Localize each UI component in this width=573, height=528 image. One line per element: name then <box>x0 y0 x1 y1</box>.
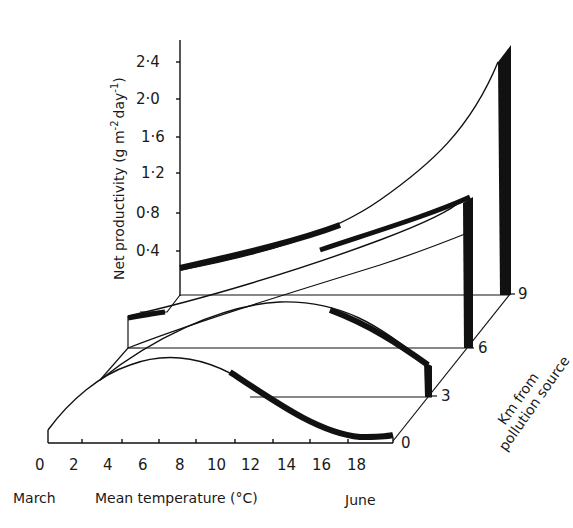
y-tick-label: 1·2 <box>141 164 165 182</box>
y-tick-label: 0·4 <box>136 242 160 260</box>
y-tick-label: 2·0 <box>136 90 160 108</box>
y-axis <box>176 40 180 296</box>
x-tick-label: 0 <box>35 456 45 474</box>
net-productivity-3d-chart: 0·4 0·8 1·2 1·6 2·0 2·4 Net productivity… <box>0 0 573 528</box>
x-axis <box>48 438 393 443</box>
x-tick-labels: 0 2 4 6 8 10 12 14 16 18 <box>35 456 366 474</box>
y-tick-label: 2·4 <box>136 53 160 71</box>
x-axis-right-label: June <box>344 492 376 508</box>
series-0km-ribbon <box>48 358 393 443</box>
y-axis-title: Net productivity (g m-2day-1) <box>109 77 127 280</box>
series-9km-ribbon <box>180 45 511 295</box>
x-tick-label: 18 <box>347 456 366 474</box>
z-tick-label: 0 <box>401 434 411 452</box>
x-tick-label: 6 <box>138 456 148 474</box>
x-tick-label: 12 <box>241 456 260 474</box>
x-tick-label: 8 <box>175 456 185 474</box>
x-tick-label: 16 <box>312 456 331 474</box>
x-tick-label: 10 <box>207 456 226 474</box>
y-tick-labels: 0·4 0·8 1·2 1·6 2·0 2·4 <box>136 53 165 260</box>
y-tick-label: 0·8 <box>136 204 160 222</box>
x-axis-left-label: March <box>13 490 56 506</box>
x-tick-label: 14 <box>277 456 296 474</box>
x-tick-label: 4 <box>103 456 113 474</box>
z-tick-label: 3 <box>441 387 451 405</box>
y-tick-label: 1·6 <box>141 128 165 146</box>
z-tick-label: 9 <box>518 285 528 303</box>
z-tick-label: 6 <box>478 339 488 357</box>
x-tick-label: 2 <box>69 456 79 474</box>
x-axis-title: Mean temperature (°C) <box>95 490 258 506</box>
